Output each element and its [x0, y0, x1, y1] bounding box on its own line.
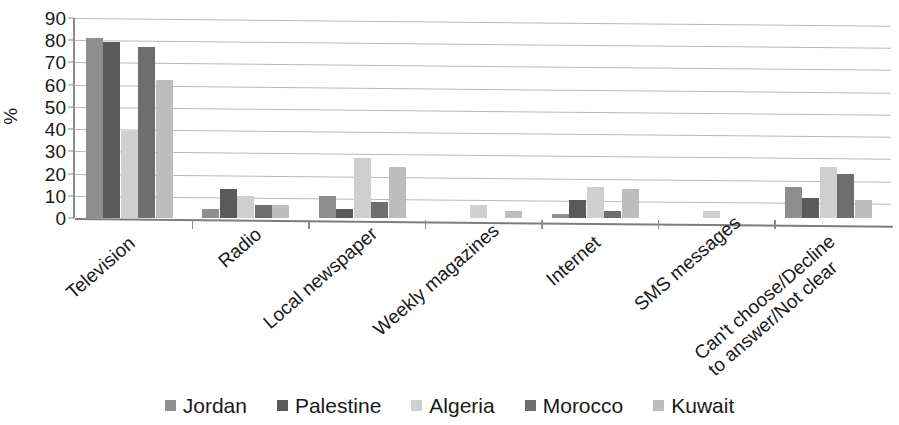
- y-axis-tick-label: 90: [28, 9, 66, 28]
- x-axis-category-label: Television: [62, 232, 139, 303]
- bar: [121, 131, 138, 218]
- bar: [156, 80, 173, 218]
- bar: [371, 202, 388, 218]
- y-axis-tick-label: 30: [28, 142, 66, 161]
- legend-item[interactable]: Palestine: [277, 395, 381, 416]
- bar: [354, 158, 371, 218]
- chart-legend: JordanPalestineAlgeriaMoroccoKuwait: [0, 388, 899, 422]
- bar: [785, 187, 802, 218]
- bar: [220, 189, 237, 218]
- legend-item[interactable]: Algeria: [411, 395, 494, 416]
- bar: [604, 211, 621, 218]
- bar: [138, 47, 155, 218]
- legend-label: Algeria: [429, 395, 494, 416]
- legend-swatch-icon: [277, 400, 288, 411]
- bar: [505, 211, 522, 218]
- bar: [272, 205, 289, 218]
- bar: [569, 200, 586, 218]
- plot-region: % 9080706050403020100: [0, 0, 899, 240]
- bar: [470, 205, 487, 218]
- bar: [319, 196, 336, 218]
- bar: [622, 189, 639, 218]
- bar: [336, 209, 353, 218]
- legend-label: Kuwait: [671, 395, 734, 416]
- bar: [389, 167, 406, 218]
- x-axis-category-label-line: Radio: [214, 223, 265, 271]
- y-axis-tick-label: 20: [28, 164, 66, 183]
- legend-swatch-icon: [165, 400, 176, 411]
- plot-area: [75, 18, 891, 218]
- bar: [820, 167, 837, 218]
- bar: [86, 38, 103, 218]
- bar: [703, 211, 720, 218]
- bar: [255, 205, 272, 218]
- legend-label: Palestine: [295, 395, 381, 416]
- bar: [237, 196, 254, 218]
- legend-swatch-icon: [653, 400, 664, 411]
- bar: [202, 209, 219, 218]
- y-axis-tick-label: 80: [28, 31, 66, 50]
- x-axis-category-label-line: to answer/Not clear: [704, 247, 853, 380]
- bar: [855, 200, 872, 218]
- legend-item[interactable]: Kuwait: [653, 395, 734, 416]
- bars-layer: [75, 18, 891, 218]
- y-axis-tick-label: 40: [28, 120, 66, 139]
- bar: [103, 42, 120, 218]
- bar: [802, 198, 819, 218]
- x-axis-category-label: Radio: [214, 223, 265, 271]
- x-axis-category-label-line: Weekly magazines: [369, 219, 503, 339]
- x-axis-category-labels: TelevisionRadioLocal newspaperWeekly mag…: [0, 225, 899, 365]
- legend-label: Morocco: [543, 395, 624, 416]
- y-axis-tick-labels: 9080706050403020100: [28, 0, 66, 240]
- x-axis-category-label-line: Local newspaper: [259, 223, 381, 333]
- y-axis-title: %: [0, 107, 22, 124]
- legend-label: Jordan: [183, 395, 247, 416]
- y-axis-tick-label: 70: [28, 53, 66, 72]
- y-axis-tick-label: 50: [28, 97, 66, 116]
- x-axis-category-label: Internet: [542, 232, 604, 290]
- x-axis-category-label-line: Internet: [542, 232, 604, 290]
- x-axis-category-label-line: SMS messages: [630, 212, 744, 315]
- legend-item[interactable]: Jordan: [165, 395, 247, 416]
- x-axis-category-label: Local newspaper: [259, 223, 381, 333]
- bar: [837, 174, 854, 218]
- bar: [587, 187, 604, 218]
- bar-chart: % 9080706050403020100 TelevisionRadioLoc…: [0, 0, 899, 425]
- x-axis-category-label: SMS messages: [630, 212, 744, 315]
- y-axis-tick-label: 60: [28, 75, 66, 94]
- y-axis-tick-label: 10: [28, 186, 66, 205]
- x-axis-category-label: Weekly magazines: [369, 219, 503, 339]
- x-axis-category-label-line: Television: [62, 232, 139, 303]
- legend-item[interactable]: Morocco: [525, 395, 624, 416]
- legend-swatch-icon: [411, 400, 422, 411]
- legend-swatch-icon: [525, 400, 536, 411]
